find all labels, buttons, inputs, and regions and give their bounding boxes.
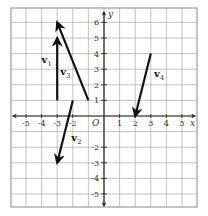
y-tick-label: -4 bbox=[91, 174, 99, 183]
origin-label: O bbox=[92, 118, 100, 128]
vectors: v1v2v3v4 bbox=[41, 22, 164, 162]
vector-subscript-v3: 3 bbox=[66, 72, 70, 80]
x-tick-label: 1 bbox=[117, 119, 122, 128]
axes: xyO bbox=[13, 9, 195, 206]
y-tick-label: 4 bbox=[94, 50, 99, 59]
y-tick-label: 1 bbox=[94, 96, 99, 105]
y-tick-label: -2 bbox=[91, 143, 99, 152]
y-tick-label: -5 bbox=[91, 190, 99, 199]
tick-labels: -5-4-3-212345654321-2-3-4-5 bbox=[22, 18, 184, 199]
y-axis-label: y bbox=[107, 9, 114, 19]
x-tick-label: -2 bbox=[69, 119, 77, 128]
x-tick-label: 3 bbox=[148, 119, 153, 128]
vector-subscript-v4: 4 bbox=[160, 74, 164, 82]
y-tick-label: 6 bbox=[94, 18, 99, 27]
y-tick-label: 2 bbox=[94, 81, 99, 90]
x-tick-label: 2 bbox=[133, 119, 138, 128]
coordinate-plane: xyO -5-4-3-212345654321-2-3-4-5 v1v2v3v4 bbox=[0, 0, 208, 216]
x-axis-label: x bbox=[190, 118, 195, 128]
x-tick-label: 4 bbox=[164, 119, 169, 128]
vector-subscript-v1: 1 bbox=[48, 60, 52, 68]
y-tick-label: -3 bbox=[91, 159, 99, 168]
vector-subscript-v2: 2 bbox=[77, 138, 81, 146]
x-tick-label: -4 bbox=[38, 119, 46, 128]
x-tick-label: 5 bbox=[179, 119, 184, 128]
x-tick-label: -5 bbox=[22, 119, 30, 128]
x-tick-label: -3 bbox=[53, 119, 61, 128]
y-tick-label: 3 bbox=[94, 65, 99, 74]
y-tick-label: 5 bbox=[94, 34, 99, 43]
